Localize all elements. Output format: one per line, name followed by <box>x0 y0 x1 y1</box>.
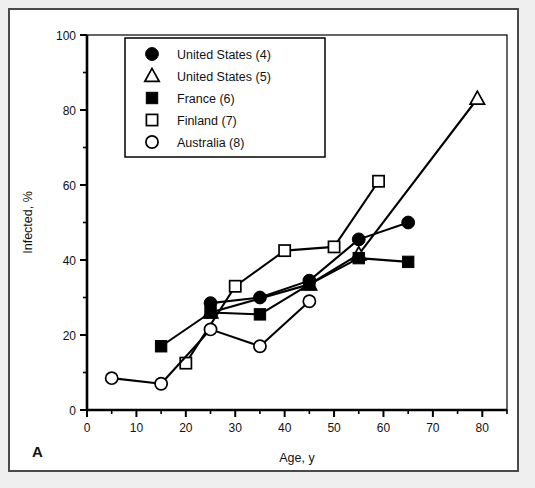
y-tick-label: 60 <box>63 179 77 193</box>
open-circle-marker <box>303 295 315 307</box>
x-tick-label: 70 <box>426 421 440 435</box>
filled-square-marker <box>304 279 315 290</box>
filled-circle-marker <box>352 233 365 246</box>
filled-square-marker <box>402 256 413 267</box>
legend-entry-label: France (6) <box>177 92 235 106</box>
x-tick-label: 60 <box>377 421 391 435</box>
x-tick-label: 10 <box>130 421 144 435</box>
x-tick-label: 50 <box>327 421 341 435</box>
open-circle-marker <box>155 378 167 390</box>
open-square-marker <box>279 245 290 256</box>
figure-panel: 02040608010001020304050607080Age, yInfec… <box>8 8 519 472</box>
open-circle-marker <box>204 323 216 335</box>
open-square-marker <box>328 241 339 252</box>
open-triangle-marker <box>470 91 484 104</box>
x-tick-label: 30 <box>229 421 243 435</box>
open-square-marker <box>373 176 384 187</box>
series-line <box>186 181 379 363</box>
x-axis-title: Age, y <box>279 451 315 465</box>
x-tick-label: 80 <box>476 421 490 435</box>
series-line <box>161 258 408 346</box>
series-4 <box>180 176 384 369</box>
panel-label: A <box>32 443 43 460</box>
filled-square-marker <box>353 252 364 263</box>
y-tick-label: 0 <box>69 404 76 418</box>
legend-entry-label: United States (4) <box>177 48 271 62</box>
open-square-marker <box>146 114 157 125</box>
scatter-line-chart: 02040608010001020304050607080Age, yInfec… <box>10 10 517 470</box>
open-circle-marker <box>106 372 118 384</box>
legend-entry-label: Finland (7) <box>177 114 237 128</box>
y-axis-title: Infected, % <box>21 191 35 254</box>
open-circle-marker <box>254 340 266 352</box>
y-tick-label: 100 <box>56 29 76 43</box>
filled-square-marker <box>205 307 216 318</box>
y-tick-label: 20 <box>63 329 77 343</box>
legend-layer: United States (4)United States (5)France… <box>125 38 325 157</box>
y-tick-label: 80 <box>63 104 77 118</box>
y-tick-label: 40 <box>63 254 77 268</box>
filled-circle-marker <box>402 216 415 229</box>
x-tick-label: 0 <box>84 421 91 435</box>
filled-circle-marker <box>146 48 159 61</box>
filled-square-marker <box>155 341 166 352</box>
open-circle-marker <box>146 136 158 148</box>
open-square-marker <box>180 358 191 369</box>
x-tick-label: 20 <box>179 421 193 435</box>
x-tick-label: 40 <box>278 421 292 435</box>
filled-square-marker <box>254 309 265 320</box>
open-square-marker <box>230 281 241 292</box>
legend-entry-label: Australia (8) <box>177 136 244 150</box>
series-3 <box>155 252 413 352</box>
filled-square-marker <box>146 92 157 103</box>
legend-entry-label: United States (5) <box>177 70 271 84</box>
